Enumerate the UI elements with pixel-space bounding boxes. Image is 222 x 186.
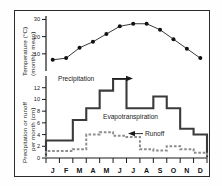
month-label-group: JFMAMJJASOND <box>51 167 203 174</box>
precipitation-arrow-icon <box>126 76 133 81</box>
temperature-point <box>64 56 68 60</box>
temperature-point <box>104 32 108 36</box>
month-tick-group <box>46 158 207 163</box>
month-label: M <box>77 167 83 174</box>
runoff-annotation-label: Runoff <box>145 130 164 137</box>
month-label: A <box>144 167 149 174</box>
runoff-step-line <box>46 132 207 158</box>
temperature-tick-label: 30 <box>34 16 40 22</box>
precipitation-tick-label: 4 <box>37 132 40 138</box>
month-label: S <box>158 167 163 174</box>
precipitation-tick-label: 8 <box>37 108 40 114</box>
precipitation-tick-label: 12 <box>34 85 40 91</box>
temperature-point <box>78 46 82 50</box>
temperature-point <box>198 56 202 60</box>
month-label: O <box>171 167 177 174</box>
month-label: J <box>118 167 122 174</box>
precipitation-tick-group: 024681012 <box>34 85 46 161</box>
temperature-points <box>51 22 203 62</box>
climate-water-balance-figure: Temperature (°C) (monthly mean) Precipit… <box>0 0 222 186</box>
month-label: J <box>51 167 55 174</box>
top-panel: 102030 <box>34 16 203 71</box>
precipitation-tick-label: 2 <box>37 143 40 149</box>
month-label: D <box>198 167 203 174</box>
temperature-line <box>53 24 201 60</box>
temperature-point <box>145 22 149 26</box>
temperature-tick-group: 102030 <box>34 16 46 56</box>
precipitation-annotation-label: Precipitation <box>58 75 95 83</box>
temperature-point <box>158 28 162 32</box>
month-label: A <box>90 167 95 174</box>
month-label: N <box>184 167 189 174</box>
temperature-point <box>185 47 189 51</box>
temperature-tick-label: 10 <box>34 51 40 57</box>
month-label: M <box>103 167 109 174</box>
temperature-point <box>91 40 95 44</box>
temperature-point <box>51 58 55 62</box>
temperature-point <box>171 37 175 41</box>
bottom-panel: 024681012 Precipitation Evapotranspirati… <box>34 75 207 163</box>
precipitation-tick-label: 10 <box>34 96 40 102</box>
runoff-arrow-icon <box>128 131 135 136</box>
month-label: F <box>64 167 69 174</box>
temperature-tick-label: 20 <box>34 34 40 40</box>
temperature-point <box>118 24 122 28</box>
precipitation-tick-label: 6 <box>37 120 40 126</box>
chart-canvas: 102030 024681012 Precipitation Evapotran… <box>0 0 222 186</box>
month-label: J <box>131 167 135 174</box>
precipitation-tick-label: 0 <box>37 155 40 161</box>
temperature-point <box>131 22 135 26</box>
evapotranspiration-annotation-label: Evapotranspiration <box>103 113 158 121</box>
